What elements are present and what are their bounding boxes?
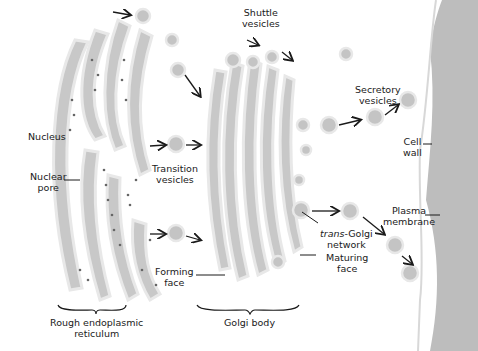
label-nucleus: Nucleus: [28, 131, 66, 142]
label-plasma-membrane: Plasma membrane: [383, 205, 435, 227]
label-golgi-body: Golgi body: [224, 317, 275, 328]
label-line: face: [155, 277, 194, 288]
rough-er: [54, 20, 160, 300]
label-trans-golgi-network: trans-Golgi network: [320, 228, 373, 250]
label-rough-er: Rough endoplasmic reticulum: [50, 317, 143, 339]
label-italic: trans: [320, 228, 344, 239]
label-line: vesicles: [355, 95, 401, 106]
label-line: reticulum: [50, 328, 143, 339]
braces: [58, 305, 299, 314]
label-line: vesicles: [152, 174, 198, 185]
label-line: Shuttle: [242, 7, 280, 18]
label-line: wall: [403, 147, 422, 158]
label-line: Nuclear: [30, 171, 67, 182]
label-nuclear-pore: Nuclear pore: [30, 171, 67, 193]
label-text: -Golgi: [344, 228, 372, 239]
label-line: Cell: [403, 136, 422, 147]
label-secretory-vesicles: Secretory vesicles: [355, 84, 401, 106]
label-line: pore: [30, 182, 67, 193]
label-line: face: [326, 263, 368, 274]
label-forming-face: Forming face: [155, 266, 194, 288]
diagram-canvas: [0, 0, 478, 351]
label-shuttle-vesicles: Shuttle vesicles: [242, 7, 280, 29]
label-line: Plasma: [383, 205, 435, 216]
label-line: network: [320, 239, 373, 250]
label-line: Rough endoplasmic: [50, 317, 143, 328]
label-cell-wall: Cell wall: [403, 136, 422, 158]
label-line: Maturing: [326, 252, 368, 263]
label-line: Forming: [155, 266, 194, 277]
label-line: Transition: [152, 163, 198, 174]
label-line: membrane: [383, 216, 435, 227]
label-line: vesicles: [242, 18, 280, 29]
label-line: Secretory: [355, 84, 401, 95]
label-maturing-face: Maturing face: [326, 252, 368, 274]
label-transition-vesicles: Transition vesicles: [152, 163, 198, 185]
label-line: trans-Golgi: [320, 228, 373, 239]
golgi-cisternae: [208, 60, 302, 280]
cell-wall: [426, 0, 478, 351]
